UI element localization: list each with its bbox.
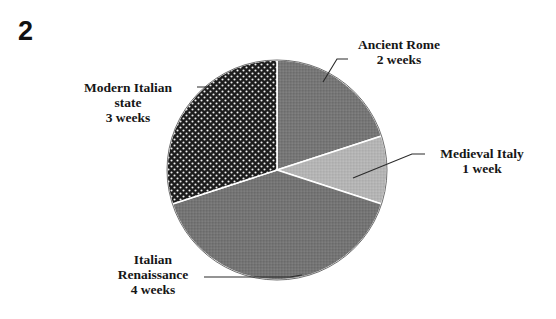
slice-label-value: 3 weeks: [58, 110, 198, 125]
slice-label-medieval-italy: Medieval Italy 1 week: [418, 146, 546, 176]
slice-label-ancient-rome: Ancient Rome 2 weeks: [334, 37, 464, 67]
pie-chart: [167, 60, 387, 280]
slice-label-value: 2 weeks: [334, 52, 464, 67]
slice-label-value: 4 weeks: [88, 282, 218, 297]
slice-label-line: state: [58, 95, 198, 110]
slice-label-line: Ancient Rome: [334, 37, 464, 52]
slice-label-line: Modern Italian: [58, 80, 198, 95]
slice-label-line: Medieval Italy: [418, 146, 546, 161]
slice-label-value: 1 week: [418, 161, 546, 176]
slice-label-modern-italian-state: Modern Italian state 3 weeks: [58, 80, 198, 125]
slice-label-line: Renaissance: [88, 267, 218, 282]
slice-label-line: Italian: [88, 252, 218, 267]
pie-chart-svg: [167, 60, 387, 280]
figure-number: 2: [18, 18, 33, 45]
slice-label-italian-renaissance: Italian Renaissance 4 weeks: [88, 252, 218, 297]
figure-container: 2: [0, 0, 556, 319]
